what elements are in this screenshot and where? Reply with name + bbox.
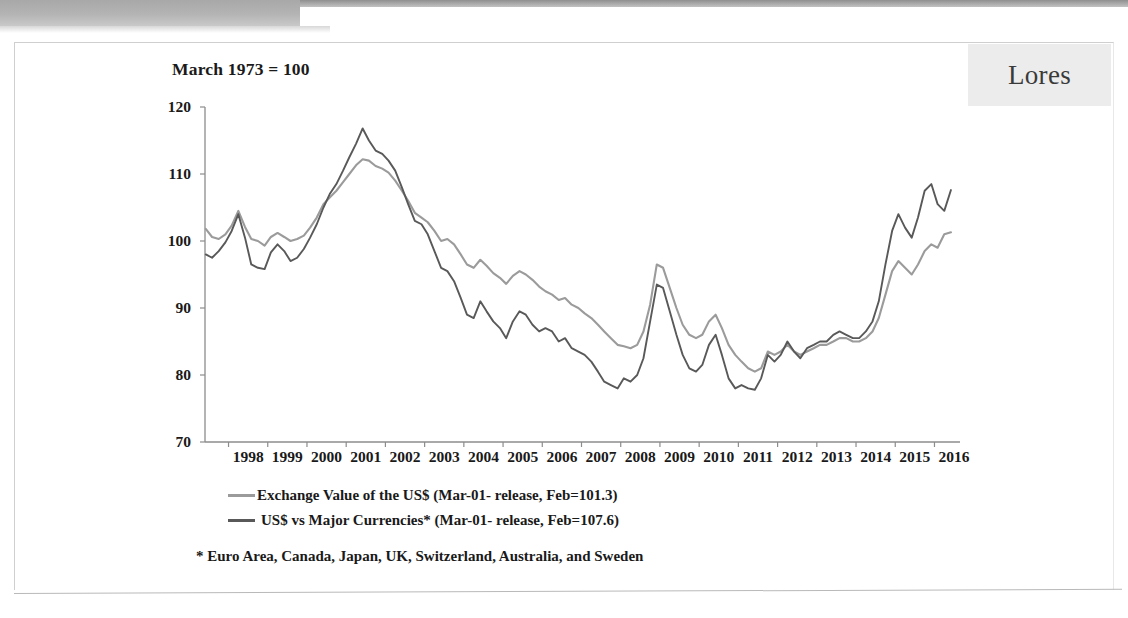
x-axis-tick-label: 2008 (618, 448, 662, 466)
series-line-major (206, 128, 951, 389)
x-axis-tick-label: 2000 (305, 448, 349, 466)
y-axis-tick-label: 90 (155, 299, 191, 317)
x-axis-tick-label: 2011 (736, 448, 780, 466)
x-axis-tick-label: 2007 (579, 448, 623, 466)
series-line-broad (206, 159, 951, 371)
x-axis-tick-label: 2012 (775, 448, 819, 466)
legend-item-broad: Exchange Value of the US$ (Mar-01- relea… (228, 487, 618, 504)
x-axis-tick-label: 2006 (540, 448, 584, 466)
x-axis-tick-label: 2005 (501, 448, 545, 466)
legend-swatch-major-icon (228, 519, 255, 523)
x-axis-tick-label: 2001 (344, 448, 388, 466)
x-axis-tick-label: 2004 (461, 448, 505, 466)
y-axis-tick-label: 110 (155, 165, 191, 183)
x-axis-tick-label: 2013 (814, 448, 858, 466)
legend-item-major: US$ vs Major Currencies* (Mar-01- releas… (228, 512, 619, 529)
x-axis-tick-label: 2009 (658, 448, 702, 466)
x-axis-tick-label: 1999 (265, 448, 309, 466)
x-axis-tick-label: 2014 (854, 448, 898, 466)
legend-label-major: US$ vs Major Currencies* (Mar-01- releas… (261, 512, 619, 529)
x-axis-tick-label: 1998 (226, 448, 270, 466)
x-axis-tick-label: 2010 (697, 448, 741, 466)
x-axis-tick-label: 2002 (383, 448, 427, 466)
y-axis-tick-label: 100 (155, 232, 191, 250)
y-axis-tick-label: 80 (155, 366, 191, 384)
x-axis-tick-label: 2003 (422, 448, 466, 466)
y-axis-tick-label: 120 (155, 98, 191, 116)
legend-swatch-broad-icon (228, 494, 255, 498)
y-axis-tick-label: 70 (155, 433, 191, 451)
legend-label-broad: Exchange Value of the US$ (Mar-01- relea… (257, 487, 618, 504)
chart-footnote: * Euro Area, Canada, Japan, UK, Switzerl… (196, 548, 643, 565)
x-axis-tick-label: 2016 (932, 448, 976, 466)
x-axis-tick-label: 2015 (893, 448, 937, 466)
